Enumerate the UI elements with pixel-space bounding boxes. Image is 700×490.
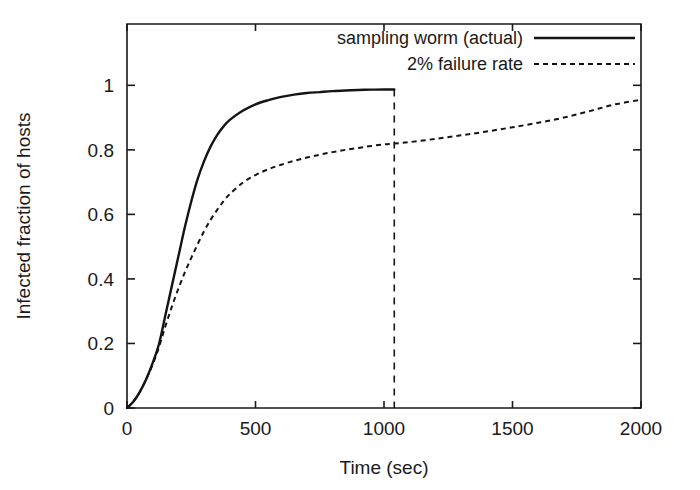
legend-item-label-sampling-worm: sampling worm (actual) xyxy=(337,28,523,48)
legend-item-label-failure-rate: 2% failure rate xyxy=(407,54,523,74)
y-tick-label: 0 xyxy=(103,398,114,419)
y-axis-title: Infected fraction of hosts xyxy=(13,112,34,319)
line-chart: 0500100015002000 00.20.40.60.81 Time (se… xyxy=(0,0,700,490)
y-tick-label: 0.8 xyxy=(88,140,114,161)
x-tick-label: 2000 xyxy=(620,418,662,439)
chart-figure: 0500100015002000 00.20.40.60.81 Time (se… xyxy=(0,0,700,490)
y-axis-tick-labels: 00.20.40.60.81 xyxy=(88,75,115,419)
x-tick-label: 1500 xyxy=(491,418,533,439)
y-tick-label: 0.6 xyxy=(88,204,114,225)
x-axis-ticks xyxy=(127,24,641,408)
chart-legend: sampling worm (actual) 2% failure rate xyxy=(337,28,635,74)
series-sampling-worm-actual xyxy=(127,89,394,408)
series-2pct-failure-rate xyxy=(127,100,641,408)
y-tick-label: 0.4 xyxy=(88,269,115,290)
x-axis-title: Time (sec) xyxy=(339,457,428,478)
x-tick-label: 500 xyxy=(240,418,272,439)
plot-frame xyxy=(127,24,641,408)
y-tick-label: 0.2 xyxy=(88,333,114,354)
x-tick-label: 1000 xyxy=(363,418,405,439)
y-axis-ticks xyxy=(127,85,641,408)
x-tick-label: 0 xyxy=(122,418,133,439)
x-axis-tick-labels: 0500100015002000 xyxy=(122,418,662,439)
data-series-group xyxy=(127,89,641,408)
y-tick-label: 1 xyxy=(103,75,114,96)
